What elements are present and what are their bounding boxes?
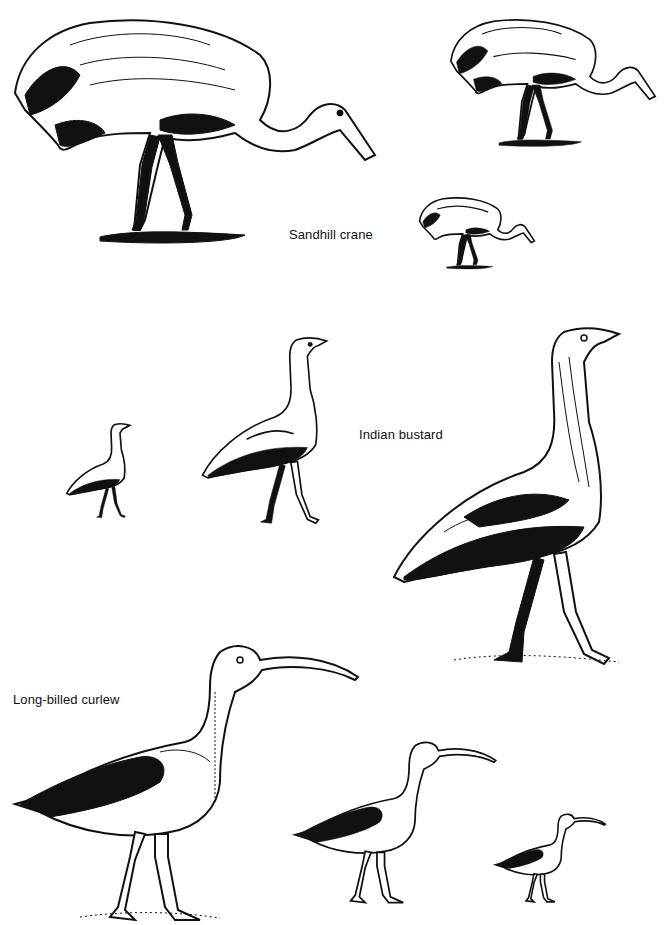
label-sandhill-crane: Sandhill crane [289, 227, 373, 242]
sandhill-crane-large-illustration [10, 15, 380, 255]
indian-bustard-large-illustration [384, 322, 634, 672]
illustration-plate: Sandhill crane [0, 0, 671, 925]
long-billed-curlew-medium-illustration [292, 740, 497, 905]
sandhill-crane-medium-illustration [448, 15, 658, 155]
indian-bustard-medium-illustration [197, 330, 335, 532]
label-indian-bustard: Indian bustard [359, 427, 443, 442]
label-long-billed-curlew: Long-billed curlew [13, 692, 120, 707]
sandhill-crane-small-illustration [418, 196, 536, 273]
indian-bustard-small-illustration [64, 414, 134, 528]
long-billed-curlew-small-illustration [494, 812, 606, 904]
